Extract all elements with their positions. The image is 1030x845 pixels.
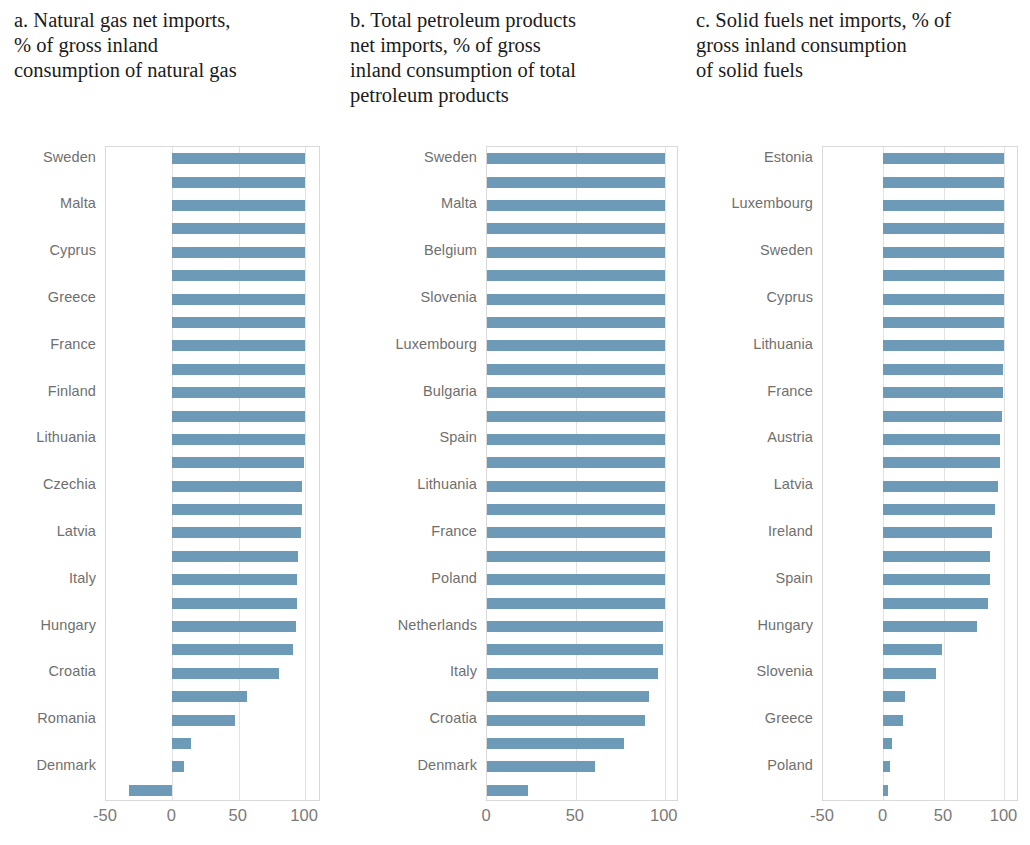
category-label: Slovenia <box>683 663 813 679</box>
x-tick-label: 50 <box>913 806 973 825</box>
bar <box>487 621 663 632</box>
bar <box>487 527 665 538</box>
bar <box>487 153 665 164</box>
bar <box>172 738 191 749</box>
bar <box>487 411 665 422</box>
panel-c-plot: EstoniaLuxembourgSwedenCyprusLithuaniaFr… <box>690 0 1030 845</box>
bar <box>487 551 665 562</box>
category-label: Sweden <box>0 149 96 165</box>
category-label: Lithuania <box>0 429 96 445</box>
bar <box>172 527 301 538</box>
plot-area <box>486 146 678 801</box>
x-tick-label: -50 <box>75 806 135 825</box>
x-tick-label: 100 <box>274 806 334 825</box>
category-label: France <box>0 336 96 352</box>
bar <box>487 738 624 749</box>
category-label: Netherlands <box>347 617 477 633</box>
bar <box>883 621 976 632</box>
bar <box>172 504 302 515</box>
bar <box>172 644 293 655</box>
bar <box>487 715 645 726</box>
bar <box>883 434 999 445</box>
bar <box>883 153 1004 164</box>
bar <box>172 411 305 422</box>
category-label: Sweden <box>347 149 477 165</box>
category-label: Poland <box>683 757 813 773</box>
bar <box>487 668 658 679</box>
category-label: Malta <box>347 195 477 211</box>
bar <box>172 223 305 234</box>
bar <box>172 270 305 281</box>
bar <box>487 387 665 398</box>
bar <box>487 785 528 796</box>
x-tick-label: 0 <box>456 806 516 825</box>
bar <box>487 481 665 492</box>
category-label: Cyprus <box>683 289 813 305</box>
category-label: Sweden <box>683 242 813 258</box>
bar <box>172 715 234 726</box>
bar <box>487 317 665 328</box>
bar <box>172 317 305 328</box>
bar <box>883 785 888 796</box>
bar <box>883 177 1004 188</box>
bar <box>172 387 305 398</box>
gridline <box>944 147 945 800</box>
panel-solid-fuels: c. Solid fuels net imports, % of gross i… <box>690 0 1030 845</box>
bar <box>487 340 665 351</box>
bar <box>487 177 665 188</box>
category-label: Malta <box>0 195 96 211</box>
bar <box>172 691 246 702</box>
bar <box>487 691 649 702</box>
bar <box>172 340 305 351</box>
bar <box>883 551 989 562</box>
category-label: Greece <box>683 710 813 726</box>
bar <box>883 574 989 585</box>
gridline <box>305 147 306 800</box>
figure-panels: a. Natural gas net imports, % of gross i… <box>0 0 1030 845</box>
bar <box>883 481 998 492</box>
bar <box>883 668 935 679</box>
x-tick-label: 50 <box>208 806 268 825</box>
category-label: Ireland <box>683 523 813 539</box>
category-label: Finland <box>0 383 96 399</box>
category-label: Bulgaria <box>347 383 477 399</box>
category-label: France <box>347 523 477 539</box>
bar <box>172 574 297 585</box>
category-label: Denmark <box>0 757 96 773</box>
bar <box>487 294 665 305</box>
category-label: Croatia <box>347 710 477 726</box>
panel-petroleum-products: b. Total petroleum products net imports,… <box>340 0 690 845</box>
panel-a-plot: SwedenMaltaCyprusGreeceFranceFinlandLith… <box>0 0 340 845</box>
category-label: Estonia <box>683 149 813 165</box>
category-label: Luxembourg <box>683 195 813 211</box>
bar <box>883 200 1004 211</box>
bar <box>883 411 1002 422</box>
bar <box>487 644 663 655</box>
bar <box>172 457 303 468</box>
category-label: Hungary <box>683 617 813 633</box>
bar <box>883 715 902 726</box>
category-label: Latvia <box>0 523 96 539</box>
bar <box>172 481 302 492</box>
bar <box>883 644 941 655</box>
bar <box>487 434 665 445</box>
bar <box>172 761 184 772</box>
x-tick-label: 100 <box>634 806 694 825</box>
bar <box>487 598 665 609</box>
bar <box>883 761 889 772</box>
bar <box>487 200 665 211</box>
bar <box>883 691 905 702</box>
bar <box>172 621 295 632</box>
category-label: Italy <box>347 663 477 679</box>
bar <box>883 317 1004 328</box>
x-tick-label: 0 <box>141 806 201 825</box>
bar <box>883 294 1004 305</box>
bar <box>883 527 992 538</box>
category-label: France <box>683 383 813 399</box>
bar <box>487 504 665 515</box>
category-label: Luxembourg <box>347 336 477 352</box>
category-label: Austria <box>683 429 813 445</box>
bar <box>487 247 665 258</box>
bar <box>883 340 1004 351</box>
bar <box>487 223 665 234</box>
